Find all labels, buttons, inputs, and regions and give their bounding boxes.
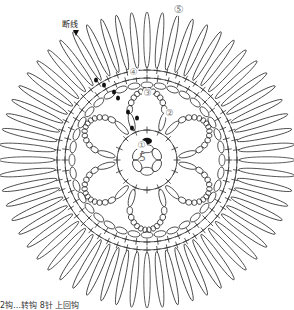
outer-petal-loop xyxy=(238,141,294,153)
join-dot xyxy=(94,78,98,83)
join-dot xyxy=(135,116,139,121)
outer-petal-loop xyxy=(153,12,165,68)
outer-petal-loop xyxy=(144,12,150,68)
outer-petal-loop xyxy=(153,251,165,307)
round-marker-4: ④ xyxy=(128,67,139,78)
outer-petal-loop xyxy=(128,12,140,68)
outer-petal-loop xyxy=(236,176,292,194)
outer-petal-loop xyxy=(236,126,292,144)
outer-petal-loop xyxy=(2,126,58,144)
center-chain-count: 5 xyxy=(139,151,146,164)
join-dot xyxy=(130,126,134,131)
outer-petal-loop xyxy=(2,176,58,194)
join-dot xyxy=(126,110,130,115)
outer-petal-loop xyxy=(144,252,150,308)
break-yarn-label: 断线 xyxy=(62,18,78,29)
crochet-chart xyxy=(0,0,294,310)
break-yarn-arrow-icon xyxy=(73,30,79,36)
join-dot xyxy=(116,96,120,101)
outer-petal-loop xyxy=(128,251,140,307)
outer-petal-loop xyxy=(0,166,56,178)
outer-petal-loop xyxy=(0,141,56,153)
outer-petal-loop xyxy=(163,249,181,305)
footer-caption: 2钩…转钩 8针 上回钩 xyxy=(0,299,79,310)
join-dot xyxy=(102,83,106,88)
round-marker-5: ⑤ xyxy=(173,5,184,16)
round-marker-3: ③ xyxy=(142,88,153,99)
outer-petal-loop xyxy=(0,157,55,163)
round-marker-1: ① xyxy=(136,140,147,151)
outer-petal-loop xyxy=(163,15,181,71)
outer-petal-loop xyxy=(238,166,294,178)
outer-petal-loop xyxy=(113,15,131,71)
outer-petal-loop xyxy=(113,249,131,305)
join-dot xyxy=(112,90,116,95)
round-marker-2: ② xyxy=(164,108,175,119)
outer-petal-loop xyxy=(239,157,294,163)
